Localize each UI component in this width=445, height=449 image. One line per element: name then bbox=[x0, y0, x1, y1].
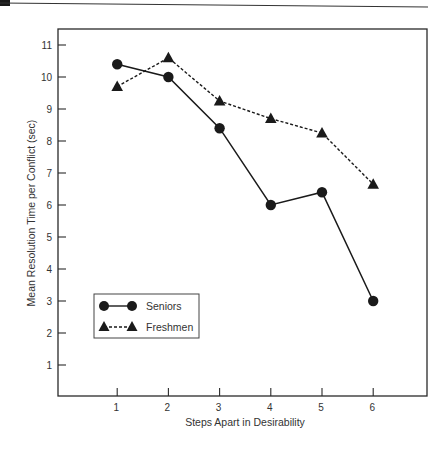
x-tick-label: 5 bbox=[318, 402, 324, 413]
y-axis-title: Mean Resolution Time per Conflict (sec) bbox=[25, 120, 37, 307]
circle-marker-icon bbox=[368, 296, 378, 306]
triangle-marker-icon bbox=[367, 178, 379, 189]
y-tick-label: 10 bbox=[41, 72, 53, 83]
circle-marker-icon bbox=[112, 59, 122, 69]
y-tick-label: 1 bbox=[46, 360, 52, 371]
legend-label-freshmen: Freshmen bbox=[146, 321, 193, 333]
top-rule bbox=[0, 3, 428, 7]
series-layer bbox=[111, 52, 379, 306]
x-tick-label: 6 bbox=[369, 402, 375, 413]
circle-marker-icon bbox=[266, 200, 276, 210]
legend: Seniors Freshmen bbox=[94, 294, 199, 338]
x-tick-label: 1 bbox=[113, 402, 119, 413]
legend-label-seniors: Seniors bbox=[146, 300, 182, 312]
triangle-marker-icon bbox=[214, 95, 226, 106]
plot-frame bbox=[58, 29, 427, 396]
x-tick-label: 4 bbox=[267, 402, 273, 413]
triangle-marker-icon bbox=[316, 127, 328, 138]
circle-marker-icon bbox=[214, 123, 224, 133]
y-tick-label: 9 bbox=[46, 104, 52, 115]
x-axis: 123456 bbox=[113, 388, 375, 413]
line-chart: 1234567891011 123456 Mean Resolution Tim… bbox=[0, 0, 445, 449]
triangle-marker-icon bbox=[163, 52, 175, 63]
circle-marker-icon bbox=[127, 301, 137, 311]
y-tick-label: 7 bbox=[46, 168, 52, 179]
y-tick-label: 2 bbox=[46, 328, 52, 339]
series-seniors bbox=[112, 59, 378, 306]
y-tick-label: 4 bbox=[46, 264, 52, 275]
x-axis-title: Steps Apart in Desirability bbox=[185, 416, 305, 428]
y-tick-label: 5 bbox=[46, 232, 52, 243]
circle-marker-icon bbox=[317, 187, 327, 197]
y-tick-label: 8 bbox=[46, 136, 52, 147]
x-tick-label: 2 bbox=[165, 402, 171, 413]
y-axis: 1234567891011 bbox=[41, 40, 66, 371]
triangle-marker-icon bbox=[111, 81, 123, 92]
y-tick-label: 3 bbox=[46, 296, 52, 307]
y-tick-label: 6 bbox=[46, 200, 52, 211]
circle-marker-icon bbox=[163, 72, 173, 82]
x-tick-label: 3 bbox=[216, 402, 222, 413]
y-tick-label: 11 bbox=[42, 40, 53, 51]
circle-marker-icon bbox=[99, 301, 109, 311]
